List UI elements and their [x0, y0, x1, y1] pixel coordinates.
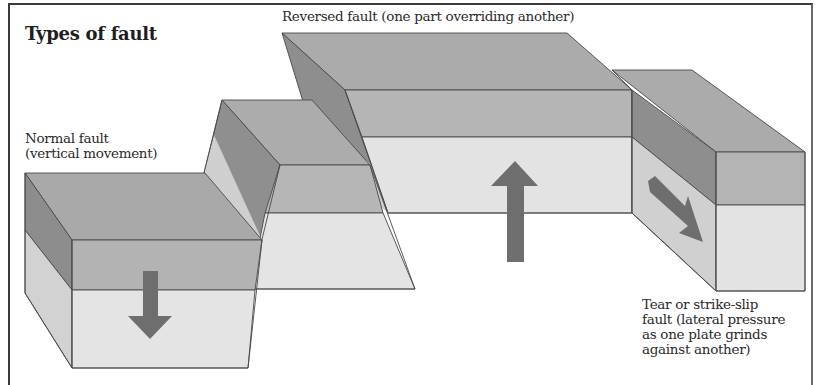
tear-fault-label-line: fault (lateral pressure [642, 312, 785, 327]
normal-fault-label: Normal fault (vertical movement) [25, 131, 157, 161]
normal-fault-label-line: (vertical movement) [25, 146, 157, 161]
figure-title: Types of fault [25, 24, 157, 44]
tear-fault-label-line: against another) [642, 342, 785, 357]
normal-fault-lowered-block [25, 173, 262, 368]
tear-fault-label-line: Tear or strike-slip [642, 297, 785, 312]
normal-fault-label-line: Normal fault [25, 131, 157, 146]
reversed-fault-label: Reversed fault (one part overriding anot… [282, 9, 574, 24]
tear-fault-label: Tear or strike-slip fault (lateral press… [642, 297, 785, 357]
tear-fault-label-line: as one plate grinds [642, 327, 785, 342]
tear-fault-block [612, 70, 805, 291]
